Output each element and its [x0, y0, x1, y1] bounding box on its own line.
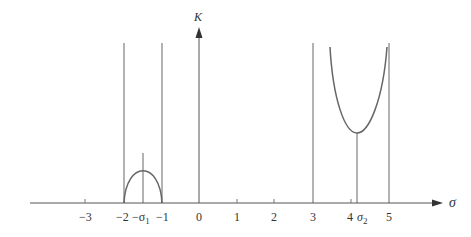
tick-label-minus3: −3: [79, 210, 92, 224]
tick-label-2: 2: [271, 210, 277, 224]
root-locus-diagram: K σ −3 −2 −1 0 1 2 3 4 5 −σ1 σ2: [0, 0, 471, 237]
k-axis-label: K: [193, 10, 203, 24]
break-in-parabola-curve: [330, 47, 387, 133]
tick-label-0: 0: [196, 210, 202, 224]
tick-label-minus1: −1: [156, 210, 169, 224]
tick-label-3: 3: [310, 210, 316, 224]
tick-label-5: 5: [386, 210, 392, 224]
sigma-axis-arrow-icon: [432, 200, 443, 207]
sigma2-label: σ2: [357, 210, 367, 226]
tick-label-minus2: −2: [116, 210, 129, 224]
tick-label-1: 1: [234, 210, 240, 224]
k-axis-arrow-icon: [196, 27, 203, 38]
tick-label-4: 4: [347, 210, 353, 224]
sigma1-label: −σ1: [132, 210, 150, 226]
sigma-axis-label: σ: [449, 195, 457, 210]
